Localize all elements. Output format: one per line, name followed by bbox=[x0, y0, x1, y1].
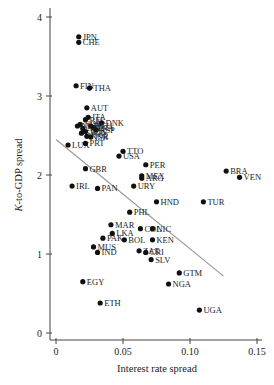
point-label: NIC bbox=[156, 224, 171, 234]
y-tick-label: 2 bbox=[37, 170, 42, 181]
data-point: TUR bbox=[201, 197, 225, 207]
point-label: PRT bbox=[89, 138, 105, 148]
data-point: URY bbox=[131, 181, 155, 191]
point-label: IND bbox=[102, 247, 117, 257]
point-label: ETH bbox=[104, 298, 121, 308]
point-label: PHL bbox=[134, 207, 150, 217]
x-tick-label: 0.05 bbox=[114, 346, 132, 357]
point-label: USA bbox=[123, 151, 141, 161]
point-label: KEN bbox=[156, 235, 173, 245]
data-point: KEN bbox=[150, 235, 174, 245]
data-point: NGA bbox=[166, 279, 192, 289]
point-label: NGA bbox=[173, 279, 192, 289]
data-point: PAN bbox=[95, 183, 118, 193]
y-tick-label: 4 bbox=[37, 12, 42, 23]
x-axis-label: Interest rate spread bbox=[117, 363, 198, 374]
data-point: HND bbox=[154, 197, 179, 207]
data-points: JPNCHEFINTHAAUTITABELDNKNORDEUFRANZLESPN… bbox=[65, 32, 261, 315]
point-label: VEN bbox=[244, 172, 261, 182]
point-label: PAN bbox=[102, 183, 118, 193]
point-label: UGA bbox=[203, 305, 222, 315]
point-label: BOL bbox=[128, 235, 145, 245]
point-label: PER bbox=[150, 160, 166, 170]
point-label: IRL bbox=[76, 181, 90, 191]
data-point: ETH bbox=[98, 298, 121, 308]
scatter-chart: JPNCHEFINTHAAUTITABELDNKNORDEUFRANZLESPN… bbox=[0, 0, 274, 385]
point-label: HND bbox=[161, 197, 179, 207]
point-label: CHE bbox=[83, 37, 100, 47]
point-label: URY bbox=[138, 181, 155, 191]
data-point: EGY bbox=[80, 277, 104, 287]
data-point: IRL bbox=[69, 181, 89, 191]
x-tick-label: 0.10 bbox=[181, 346, 199, 357]
y-axis-label: K-to-GDP spread bbox=[13, 138, 24, 213]
point-label: EGY bbox=[87, 277, 104, 287]
point-label: GBR bbox=[89, 164, 107, 174]
point-label: GTM bbox=[183, 268, 202, 278]
x-tick-label: 0.15 bbox=[248, 346, 266, 357]
y-tick-label: 1 bbox=[37, 249, 42, 260]
data-point: PHL bbox=[127, 207, 150, 217]
data-point: USA bbox=[116, 151, 140, 161]
point-label: SLV bbox=[155, 255, 171, 265]
y-tick-label: 3 bbox=[37, 91, 42, 102]
data-point: PER bbox=[143, 160, 166, 170]
data-point: GTM bbox=[177, 268, 203, 278]
x-tick-label: 0 bbox=[54, 346, 59, 357]
y-tick-label: 0 bbox=[37, 328, 42, 339]
data-point: UGA bbox=[197, 305, 223, 315]
data-point: GBR bbox=[83, 164, 107, 174]
point-label: TUR bbox=[207, 197, 224, 207]
point-label: THA bbox=[94, 83, 112, 93]
